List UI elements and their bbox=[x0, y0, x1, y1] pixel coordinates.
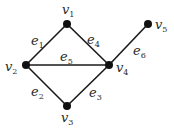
edge-label-e6: e6 bbox=[133, 43, 146, 60]
vertex-label-v4: v4 bbox=[116, 60, 128, 77]
vertex-label-v5: v5 bbox=[155, 17, 167, 34]
edge-label-e4: e4 bbox=[87, 32, 100, 49]
edge-label-e5: e5 bbox=[60, 49, 73, 66]
graph-diagram: e1e2e3e4e5e6v1v2v3v4v5 bbox=[0, 0, 174, 129]
vertex-v2 bbox=[22, 61, 30, 69]
edge-e3 bbox=[67, 65, 109, 106]
vertex-v5 bbox=[144, 20, 152, 28]
vertex-v1 bbox=[63, 20, 71, 28]
edge-label-e3: e3 bbox=[89, 85, 102, 102]
vertex-v3 bbox=[63, 102, 71, 110]
edge-label-e2: e2 bbox=[31, 84, 44, 101]
edge-label-e1: e1 bbox=[31, 33, 44, 50]
vertex-label-v2: v2 bbox=[5, 59, 17, 76]
vertex-label-v1: v1 bbox=[62, 2, 74, 19]
vertex-v4 bbox=[105, 61, 113, 69]
vertex-label-v3: v3 bbox=[61, 110, 73, 127]
